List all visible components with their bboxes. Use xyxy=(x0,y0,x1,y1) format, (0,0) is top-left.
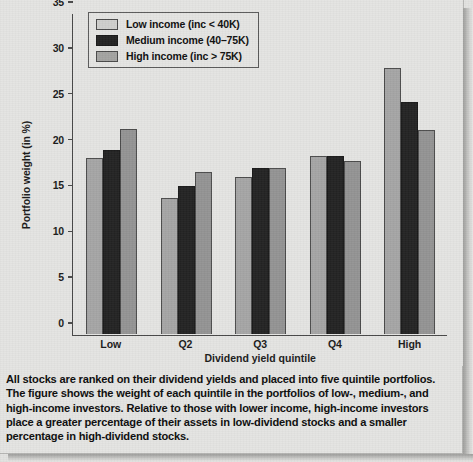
page-shadow-bottom xyxy=(8,454,473,462)
bar-group-q4 xyxy=(298,14,373,334)
x-axis-tick-label: Q2 xyxy=(148,338,223,350)
legend-label: Low income (inc < 40K) xyxy=(126,18,240,30)
chart-legend: Low income (inc < 40K)Medium income (40–… xyxy=(88,12,259,68)
y-axis-tick-mark xyxy=(68,47,73,48)
legend-swatch xyxy=(96,19,118,30)
bar xyxy=(384,68,401,334)
bar xyxy=(327,156,344,334)
bar xyxy=(103,150,120,334)
x-axis-tick-label: Q3 xyxy=(223,338,298,350)
y-axis-tick-label: 10 xyxy=(53,225,64,237)
y-axis-tick-label: 30 xyxy=(53,42,64,54)
legend-swatch xyxy=(96,51,118,62)
x-axis-tick-label: Q4 xyxy=(298,338,373,350)
bar xyxy=(252,168,269,333)
legend-swatch xyxy=(96,35,118,46)
legend-item: High income (inc > 75K) xyxy=(96,50,249,62)
legend-label: High income (inc > 75K) xyxy=(126,50,242,62)
x-axis-tick-label: Low xyxy=(73,338,148,350)
bar-group-high xyxy=(372,14,447,334)
y-axis-tick-label: 35 xyxy=(53,0,64,8)
y-axis-label: Portfolio weight (in %) xyxy=(20,121,32,230)
y-axis-tick-mark xyxy=(68,1,73,2)
y-axis-tick-label: 0 xyxy=(58,317,64,329)
bar xyxy=(161,198,178,333)
y-axis-tick: 25 xyxy=(53,88,73,100)
y-axis-tick-mark xyxy=(68,322,73,323)
legend-item: Low income (inc < 40K) xyxy=(96,18,249,30)
y-axis-tick-label: 5 xyxy=(58,271,64,283)
y-axis-tick-mark xyxy=(68,139,73,140)
x-axis-ticks: LowQ2Q3Q4High xyxy=(73,338,447,350)
bar xyxy=(344,161,361,334)
x-axis-label: Dividend yield quintile xyxy=(73,352,447,364)
bar xyxy=(178,186,195,334)
figure-caption: All stocks are ranked on their dividend … xyxy=(0,366,463,454)
y-axis-tick: 30 xyxy=(53,42,73,54)
figure-container: Portfolio weight (in %) 05101520253035 L… xyxy=(0,0,473,462)
bar xyxy=(235,177,252,333)
bar xyxy=(269,168,286,333)
y-axis-tick-label: 20 xyxy=(53,134,64,146)
y-axis-tick-label: 25 xyxy=(53,88,64,100)
y-axis-tick-mark xyxy=(68,93,73,94)
legend-item: Medium income (40–75K) xyxy=(96,34,249,46)
bar xyxy=(86,158,103,333)
bar xyxy=(310,156,327,333)
y-axis-tick: 0 xyxy=(58,317,73,329)
y-axis-tick-mark xyxy=(68,276,73,277)
legend-label: Medium income (40–75K) xyxy=(126,34,249,46)
page-shadow-right xyxy=(463,8,473,462)
y-axis-tick: 10 xyxy=(53,225,73,237)
y-axis-tick-mark xyxy=(68,185,73,186)
x-axis-tick-label: High xyxy=(372,338,447,350)
bar xyxy=(418,130,435,334)
caption-text: All stocks are ranked on their dividend … xyxy=(6,372,452,443)
chart-panel: Portfolio weight (in %) 05101520253035 L… xyxy=(0,0,464,366)
y-axis-tick: 35 xyxy=(53,0,73,8)
bar xyxy=(120,129,137,334)
y-axis-tick: 15 xyxy=(53,179,73,191)
y-axis-tick-label: 15 xyxy=(53,179,64,191)
bar xyxy=(401,102,418,334)
y-axis-tick-mark xyxy=(68,231,73,232)
bar xyxy=(195,172,212,334)
y-axis-tick: 20 xyxy=(53,134,73,146)
y-axis-tick: 5 xyxy=(58,271,73,283)
